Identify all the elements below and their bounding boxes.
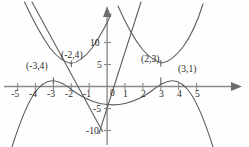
x-tick-label--1: -1 [83, 89, 91, 99]
point-label-neg2-4: (-2,4) [61, 50, 83, 60]
graph-canvas [0, 0, 249, 147]
x-tick-label--2: -2 [65, 89, 73, 99]
x-tick-label-1: 1 [123, 89, 128, 99]
origin-label: 0 [110, 88, 115, 98]
point-label-neg3-4: (-3,4) [26, 61, 48, 71]
graph-figure: -5 -4 -3 -2 -1 1 2 3 4 5 0 10 5 -5 -10 (… [0, 0, 249, 147]
y-tick-label--10: -10 [86, 126, 99, 136]
x-tick-label-5: 5 [195, 89, 200, 99]
x-tick-label-3: 3 [159, 89, 164, 99]
y-axis [103, 6, 111, 145]
y-tick-label-5: 5 [97, 60, 102, 70]
x-tick-label-2: 2 [141, 89, 146, 99]
y-tick-label--5: -5 [93, 104, 101, 114]
x-tick-label--3: -3 [47, 89, 55, 99]
y-tick-label-10: 10 [90, 38, 100, 48]
x-tick-label--5: -5 [11, 89, 19, 99]
x-tick-label-4: 4 [177, 89, 182, 99]
line-ascending [99, 2, 141, 134]
x-tick-label--4: -4 [29, 89, 37, 99]
point-label-3-1: (3,1) [178, 64, 196, 74]
point-label-2-3: (2,3) [141, 54, 159, 64]
